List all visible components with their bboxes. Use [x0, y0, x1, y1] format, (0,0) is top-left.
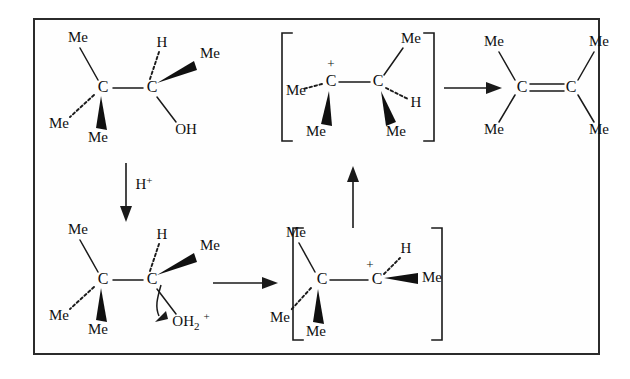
bond-ox-c2-me-wedge [157, 253, 197, 275]
arrow-elimination-head [486, 82, 502, 94]
label-ter-me-c1-wedge: Me [306, 123, 326, 139]
label-hplus: H+ [135, 174, 152, 193]
label-alkene-me-c1-down: Me [484, 121, 504, 137]
bond-ter-c2-me-up [384, 48, 403, 75]
structure-alcohol: C C Me Me Me H Me OH [49, 29, 220, 145]
structure-oxonium: C C Me Me Me H Me OH2+ [49, 221, 220, 337]
bond-sec-c1-me-up [299, 243, 315, 272]
label-sec-me-c1-wedge: Me [306, 323, 326, 339]
label-ox-me-c1-up: Me [68, 221, 88, 237]
label-sec-me-c1-up: Me [286, 224, 306, 240]
bond-sec-c1-me-wedge [313, 289, 324, 324]
arrow-hydride-shift [347, 166, 359, 228]
atom-ox-c2: C [147, 270, 158, 287]
atom-alkene-c1: C [517, 78, 528, 95]
label-me-c1-wedge: Me [88, 129, 108, 145]
label-ter-me-c2-up: Me [401, 30, 421, 46]
atom-ter-c1: C [326, 72, 337, 89]
label-oxonium-group: OH2+ [172, 310, 209, 332]
bond-c2-me-wedge [157, 61, 197, 83]
arrow-ionisation [213, 277, 278, 289]
bond-ter-c2-me-wedge [381, 91, 396, 126]
bond-ox-c1-me-dashed [70, 287, 94, 309]
label-sec-me-c2-wedge: Me [422, 269, 442, 285]
reaction-scheme: C C Me Me Me H Me OH H+ C C Me Me Me H M… [0, 0, 630, 379]
atom-alkene-c2: C [566, 78, 577, 95]
bond-c1-me-dashed [70, 95, 94, 117]
arrow-protonation: H+ [120, 163, 153, 222]
bond-sec-c2-h-dashed [384, 258, 400, 274]
atom-sec-c2: C [372, 270, 383, 287]
atom-sec-c1: C [317, 270, 328, 287]
atom-ter-c2: C [373, 72, 384, 89]
bond-ox-c2-h-dashed [150, 244, 159, 271]
curly-arrow-head [155, 311, 168, 322]
bond-c1-me-wedge [96, 96, 107, 130]
bracket-right-tertiary [424, 33, 434, 141]
atom-c1: C [98, 78, 109, 95]
charge-tertiary-plus: + [327, 56, 334, 71]
structure-tertiary-cation: C C + Me Me Me H Me [282, 30, 434, 141]
label-ox-me-c2-wedge: Me [200, 237, 220, 253]
label-h-c2: H [157, 34, 168, 50]
label-sec-me-c1-dashed: Me [270, 309, 290, 325]
structure-secondary-cation: C C + Me Me Me H Me [270, 224, 442, 340]
label-oh-c2: OH [175, 121, 197, 137]
arrow-hydride-shift-head [347, 166, 359, 182]
label-sec-h-c2: H [401, 240, 412, 256]
bond-ox-c1-me-up [80, 240, 98, 272]
label-alkene-me-c2-up: Me [589, 33, 609, 49]
bond-c2-h-dashed [150, 52, 159, 79]
bond-ter-c1-me-wedge [321, 91, 332, 126]
bracket-left-secondary [293, 228, 303, 340]
bond-ox-c1-me-wedge [96, 288, 107, 322]
charge-secondary-plus: + [366, 257, 373, 272]
label-me-c2-wedge: Me [200, 45, 220, 61]
label-alkene-me-c2-down: Me [589, 121, 609, 137]
label-ox-h-c2: H [157, 226, 168, 242]
bond-alkene-c2-me-down [578, 95, 594, 122]
label-me-c1-dashed: Me [49, 115, 69, 131]
label-alkene-me-c1-up: Me [484, 33, 504, 49]
bond-sec-c2-me-wedge [384, 273, 418, 284]
atom-ox-c1: C [98, 270, 109, 287]
arrow-ionisation-head [262, 277, 278, 289]
arrow-protonation-head [120, 206, 132, 222]
label-me-c1-up: Me [68, 29, 88, 45]
label-ter-me-c2-wedge: Me [386, 123, 406, 139]
bond-alkene-c1-me-up [499, 52, 515, 80]
atom-c2: C [147, 78, 158, 95]
label-ter-me-c1-dashed: Me [286, 82, 306, 98]
bond-ter-c2-h-dashed [386, 88, 408, 99]
bond-alkene-c1-me-down [499, 95, 515, 122]
bond-c1-me-up [80, 48, 98, 80]
bond-ox-c2-o [157, 289, 176, 314]
label-ox-me-c1-dashed: Me [49, 307, 69, 323]
label-ox-me-c1-wedge: Me [88, 321, 108, 337]
structure-alkene: C C Me Me Me Me [484, 33, 609, 137]
bond-alkene-c2-me-up [578, 52, 594, 80]
label-ter-h-c2: H [411, 94, 422, 110]
bond-c2-oh [157, 97, 176, 122]
arrow-elimination [444, 82, 502, 94]
